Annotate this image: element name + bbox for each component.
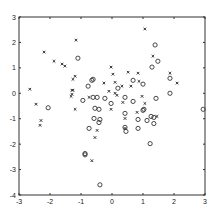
y-tick-label: -3 [10, 166, 16, 173]
x-marker [43, 51, 46, 54]
x-marker [108, 90, 111, 93]
x-marker [103, 82, 106, 85]
circle-marker [131, 78, 135, 82]
circle-marker [76, 56, 80, 60]
circle-marker [131, 99, 135, 103]
x-marker [144, 28, 147, 31]
x-tick-label: 1 [141, 198, 145, 205]
x-marker [122, 101, 125, 104]
circle-marker [81, 98, 85, 102]
circle-marker [93, 106, 97, 110]
y-tick-label: 2 [12, 39, 16, 46]
circle-marker [92, 116, 96, 120]
circle-marker [123, 111, 127, 115]
x-marker [29, 88, 32, 91]
circle-marker [116, 86, 120, 90]
x-marker [138, 80, 141, 83]
x-marker [110, 108, 113, 111]
x-marker [61, 63, 64, 66]
x-marker [114, 81, 117, 84]
x-marker [72, 78, 75, 81]
series-circle-markers [46, 43, 205, 187]
circle-marker [154, 96, 158, 100]
circle-marker [136, 117, 140, 121]
circle-marker [86, 84, 90, 88]
x-tick-label: -2 [47, 198, 53, 205]
circle-marker [91, 77, 95, 81]
x-marker [136, 111, 139, 114]
circle-marker [145, 118, 149, 122]
x-tick-label: 2 [172, 198, 176, 205]
x-tick-label: 3 [203, 198, 207, 205]
circle-marker [98, 183, 102, 187]
x-marker [127, 71, 130, 74]
x-marker [141, 95, 144, 98]
circle-marker [141, 108, 145, 112]
x-tick-label: -1 [78, 198, 84, 205]
y-tick-labels: -4-3-2-10123 [10, 14, 16, 199]
circle-marker [91, 95, 95, 99]
circle-marker [156, 59, 160, 63]
circle-marker [141, 82, 145, 86]
x-marker [169, 72, 172, 75]
y-tick-label: -2 [10, 141, 16, 148]
x-marker [114, 92, 117, 95]
circle-marker [123, 95, 127, 99]
x-tick-labels: -3-2-10123 [16, 198, 207, 205]
series-x-markers [29, 28, 179, 162]
x-marker [176, 82, 179, 85]
y-tick-label: -4 [10, 192, 16, 199]
y-tick-label: 3 [12, 14, 16, 21]
circle-marker [109, 101, 113, 105]
x-marker [75, 39, 78, 42]
x-marker [39, 124, 42, 127]
y-tick-label: 1 [12, 64, 16, 71]
circle-marker [168, 76, 172, 80]
x-marker [110, 66, 113, 69]
circle-marker [95, 95, 99, 99]
x-marker [91, 159, 94, 162]
circle-marker [148, 142, 152, 146]
circle-marker [153, 43, 157, 47]
x-marker [40, 119, 43, 122]
x-marker [152, 55, 155, 58]
x-marker [137, 72, 140, 75]
y-tick-label: -1 [10, 115, 16, 122]
x-tick-label: -3 [16, 198, 22, 205]
circle-marker [46, 106, 50, 110]
x-marker [124, 117, 127, 120]
x-marker [112, 73, 115, 76]
circle-marker [103, 96, 107, 100]
x-marker [74, 75, 77, 78]
x-marker [64, 65, 67, 68]
x-marker [130, 85, 133, 88]
x-marker [35, 103, 38, 106]
x-marker [121, 85, 124, 88]
x-marker [94, 136, 97, 139]
x-marker [74, 108, 77, 111]
circle-marker [150, 65, 154, 69]
x-tick-label: 0 [110, 198, 114, 205]
circle-marker [152, 121, 156, 125]
x-marker [88, 96, 91, 99]
y-tick-label: 0 [12, 90, 16, 97]
x-marker [144, 102, 147, 105]
circle-marker [168, 91, 172, 95]
x-marker [53, 60, 56, 63]
circle-marker [97, 107, 101, 111]
circle-marker [136, 126, 140, 130]
scatter-chart: -3-2-10123 -4-3-2-10123 [0, 0, 219, 211]
circle-marker [87, 126, 91, 130]
x-marker [96, 129, 99, 132]
